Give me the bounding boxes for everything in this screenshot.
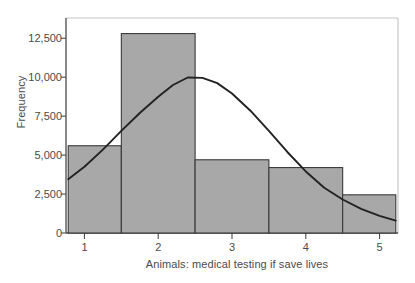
- x-tick-label-1: 1: [69, 241, 99, 253]
- y-axis-title: Frequency: [15, 57, 27, 147]
- x-tick-label-2: 2: [143, 241, 173, 253]
- x-tick-label-3: 3: [217, 241, 247, 253]
- histogram-figure: 0 2,500 5,000 7,500 10,000 12,500 1 2 3 …: [0, 0, 415, 283]
- x-tick-label-5: 5: [365, 241, 395, 253]
- x-tick-label-4: 4: [291, 241, 321, 253]
- x-axis-tick-labels: 1 2 3 4 5: [0, 0, 415, 283]
- x-axis-title: Animals: medical testing if save lives: [72, 258, 402, 270]
